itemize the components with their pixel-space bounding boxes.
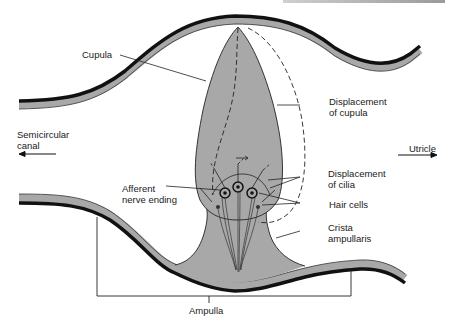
label-semicircular-line2: canal [17, 140, 69, 151]
label-crista-line1: Crista [328, 222, 371, 233]
label-afferent-nerve-ending: Afferent nerve ending [122, 183, 177, 205]
label-afferent-line1: Afferent [122, 183, 177, 194]
label-displacement-of-cupula-line2: of cupula [329, 107, 387, 118]
label-displacement-of-cilia: Displacement of cilia [328, 168, 386, 190]
label-displacement-of-cupula: Displacement of cupula [329, 96, 387, 118]
label-semicircular-canal: Semicircular canal [17, 129, 69, 151]
label-displacement-of-cilia-line2: of cilia [328, 179, 386, 190]
label-crista-line2: ampullaris [328, 233, 371, 244]
label-semicircular-line1: Semicircular [17, 129, 69, 140]
ampulla-diagram [0, 0, 452, 329]
label-ampulla: Ampulla [189, 305, 223, 316]
label-cupula: Cupula [82, 49, 112, 60]
label-displacement-of-cupula-line1: Displacement [329, 96, 387, 107]
label-hair-cells: Hair cells [329, 199, 368, 210]
label-afferent-line2: nerve ending [122, 194, 177, 205]
label-displacement-of-cilia-line1: Displacement [328, 168, 386, 179]
label-crista-ampullaris: Crista ampullaris [328, 222, 371, 244]
cupula-shape [195, 27, 282, 220]
label-utricle: Utricle [409, 143, 436, 154]
